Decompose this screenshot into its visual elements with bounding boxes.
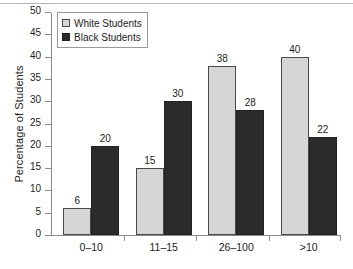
- bar-value-label: 38: [217, 53, 228, 64]
- x-category-label: 11–15: [150, 241, 178, 253]
- y-axis-line: [51, 13, 52, 236]
- y-tick-30: 30: [45, 101, 51, 102]
- bar-value-label: 20: [100, 133, 111, 144]
- y-tick-0: 0: [45, 235, 51, 236]
- y-tick-label-0: 0: [35, 228, 41, 239]
- y-tick-label-45: 45: [30, 27, 41, 38]
- legend-label-black-students: Black Students: [74, 32, 141, 43]
- x-category-label: 0–10: [80, 241, 103, 253]
- bar-value-label: 28: [245, 97, 256, 108]
- bar: 15: [136, 168, 164, 235]
- y-tick-20: 20: [45, 146, 51, 147]
- bar-value-label: 40: [289, 44, 300, 55]
- bar-value-label: 22: [317, 124, 328, 135]
- x-category-label: 26–100: [219, 241, 254, 253]
- bar: 22: [309, 137, 337, 235]
- legend-item-black-students: Black Students: [62, 30, 142, 44]
- y-tick-15: 15: [45, 168, 51, 169]
- y-tick-label-30: 30: [30, 94, 41, 105]
- top-rule-divider: [0, 3, 353, 4]
- y-tick-25: 25: [45, 124, 51, 125]
- y-tick-label-5: 5: [35, 206, 41, 217]
- chart-legend: White Students Black Students: [57, 12, 148, 48]
- y-tick-label-20: 20: [30, 139, 41, 150]
- y-tick-10: 10: [45, 190, 51, 191]
- bar-chart-figure: Percentage of Students 05101520253035404…: [0, 0, 353, 269]
- bar: 28: [236, 110, 264, 235]
- y-tick-50: 50: [45, 12, 51, 13]
- bar: 20: [91, 146, 119, 235]
- y-axis-title: Percentage of Students: [13, 39, 25, 209]
- y-tick-label-35: 35: [30, 72, 41, 83]
- x-tick-boundary: [340, 236, 341, 241]
- bar-value-label: 30: [172, 88, 183, 99]
- y-tick-40: 40: [45, 57, 51, 58]
- x-tick-boundary: [124, 236, 125, 241]
- y-tick-5: 5: [45, 213, 51, 214]
- x-tick-boundary: [269, 236, 270, 241]
- bar: 40: [281, 57, 309, 235]
- y-tick-label-10: 10: [30, 183, 41, 194]
- legend-item-white-students: White Students: [62, 16, 142, 30]
- legend-label-white-students: White Students: [74, 18, 142, 29]
- bar-value-label: 15: [144, 155, 155, 166]
- legend-swatch-white-students-icon: [62, 19, 70, 27]
- y-tick-45: 45: [45, 34, 51, 35]
- y-tick-35: 35: [45, 79, 51, 80]
- y-tick-label-40: 40: [30, 50, 41, 61]
- legend-swatch-black-students-icon: [62, 33, 70, 41]
- bar: 38: [208, 66, 236, 235]
- bar-value-label: 6: [74, 195, 80, 206]
- y-tick-label-15: 15: [30, 161, 41, 172]
- y-tick-label-50: 50: [30, 5, 41, 16]
- bar: 6: [63, 208, 91, 235]
- x-category-label: >10: [300, 241, 318, 253]
- y-tick-label-25: 25: [30, 117, 41, 128]
- x-tick-boundary: [196, 236, 197, 241]
- bar: 30: [164, 101, 192, 235]
